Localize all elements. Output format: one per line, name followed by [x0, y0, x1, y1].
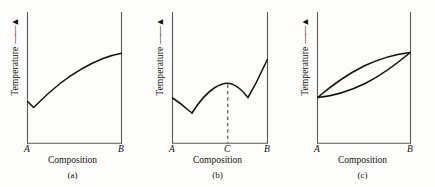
panel-b-liquidus-dome-branch [192, 83, 248, 113]
panel-b-caption: (b) [145, 170, 290, 180]
panel-a-liquidus-curve [28, 53, 122, 107]
panel-a-xtick-B: B [118, 145, 124, 155]
panel-b: Temperature——▲ A C B Composition (b) [145, 0, 290, 187]
panel-a-y-axis-label-text: Temperature [10, 47, 20, 96]
panel-b-liquidus-right-branch [248, 60, 267, 98]
panel-b-y-axis-arrow-icon: ——▲ [155, 18, 165, 43]
panel-b-xtick-C: C [224, 145, 230, 155]
panel-b-x-axis-label: Composition [145, 155, 290, 165]
panel-c-y-axis-label-text: Temperature [300, 47, 310, 96]
panel-c: Temperature——▲ A B Composition (c) [290, 0, 435, 187]
panel-a-y-axis-arrow-icon: ——▲ [10, 18, 20, 43]
panel-b-xtick-B: B [264, 145, 270, 155]
panel-c-x-axis-label: Composition [290, 155, 435, 165]
panel-c-caption: (c) [290, 170, 435, 180]
panel-c-xtick-A: A [314, 145, 320, 155]
panel-b-y-axis-label-text: Temperature [155, 47, 165, 96]
panel-a: Temperature——▲ A B Composition (a) [0, 0, 145, 187]
panel-b-y-axis-label: Temperature——▲ [155, 9, 165, 105]
panel-c-y-axis-label: Temperature——▲ [300, 9, 310, 105]
panel-c-xtick-B: B [407, 145, 413, 155]
panel-c-y-axis-arrow-icon: ——▲ [300, 18, 310, 43]
panel-b-liquidus-left-branch [173, 98, 192, 113]
panel-c-solidus-curve [318, 53, 411, 98]
panel-c-liquidus-curve [318, 53, 411, 98]
phase-diagram-figure: Temperature——▲ A B Composition (a) Tempe… [0, 0, 435, 187]
panel-b-xtick-A: A [169, 145, 175, 155]
panel-a-caption: (a) [0, 170, 145, 180]
panel-a-x-axis-label: Composition [0, 155, 145, 165]
panel-a-y-axis-label: Temperature——▲ [10, 9, 20, 105]
panel-a-xtick-A: A [24, 145, 30, 155]
